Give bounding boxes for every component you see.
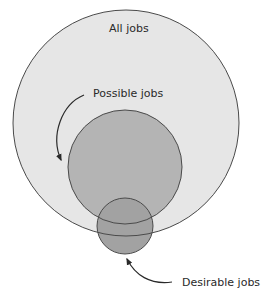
- possible-jobs-label: Possible jobs: [93, 88, 163, 99]
- desirable-jobs-label: Desirable jobs: [182, 277, 260, 288]
- all-jobs-label: All jobs: [109, 23, 149, 34]
- jobs-venn-diagram: [0, 0, 263, 297]
- desirable-jobs-arrow: [127, 259, 172, 283]
